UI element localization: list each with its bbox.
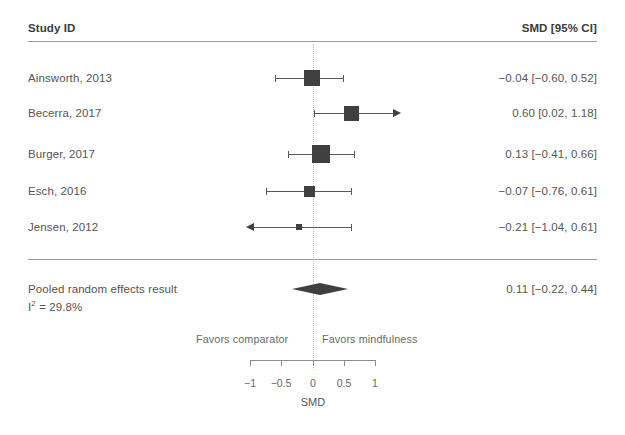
pooled-label: Pooled random effects result [28,283,177,295]
x-axis-tick-label: 1 [355,377,395,389]
ci-line [254,227,351,228]
study-label: Ainsworth, 2013 [28,72,112,84]
effect-value: −0.21 [−1.04, 0.61] [499,221,597,233]
effect-marker [304,70,320,86]
x-axis-tick [250,360,251,366]
effect-value: 0.60 [0.02, 1.18] [512,107,597,119]
header-rule-top [28,41,597,42]
ci-cap-right [354,151,355,158]
x-axis-tick [344,360,345,366]
favors-comparator-label: Favors comparator [196,333,288,345]
ci-cap-right [351,224,352,231]
effect-value: 0.13 [−0.41, 0.66] [505,148,597,160]
ci-cap-left [314,110,315,117]
study-label: Becerra, 2017 [28,107,102,119]
pooled-rule-top [28,259,597,260]
effect-value: −0.07 [−0.76, 0.61] [499,185,597,197]
ci-arrow-left [246,223,254,231]
zero-reference-line [313,44,315,370]
effect-value: −0.04 [−0.60, 0.52] [499,72,597,84]
x-axis-title: SMD [283,396,343,408]
effect-marker [296,224,302,230]
ci-cap-right [343,75,344,82]
study-label: Burger, 2017 [28,148,95,160]
heterogeneity-stat: I2 = 29.8% [28,299,82,313]
i-squared-value: = 29.8% [36,301,83,313]
ci-cap-left [275,75,276,82]
forest-plot: Study ID SMD [95% CI] Ainsworth, 2013 −0… [0,0,625,435]
effect-column-header: SMD [95% CI] [522,22,597,34]
ci-cap-left [266,188,267,195]
study-column-header: Study ID [28,22,75,34]
ci-cap-left [288,151,289,158]
favors-mindfulness-label: Favors mindfulness [322,333,417,345]
pooled-effect-value: 0.11 [−0.22, 0.44] [506,283,597,295]
x-axis-tick [281,360,282,366]
study-label: Jensen, 2012 [28,221,98,233]
study-label: Esch, 2016 [28,185,87,197]
ci-arrow-right [393,109,401,117]
x-axis-tick [313,360,314,366]
effect-marker [312,145,330,163]
x-axis-tick [375,360,376,366]
effect-marker [304,186,315,197]
effect-marker [344,106,359,121]
ci-cap-right [351,188,352,195]
pooled-diamond [292,281,348,297]
